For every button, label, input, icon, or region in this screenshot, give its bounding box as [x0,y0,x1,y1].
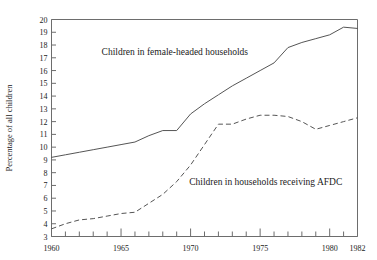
y-axis-title-group: Percentage of all children [4,84,14,172]
y-tick-label: 15 [40,79,48,88]
x-axis-ticks [52,229,358,237]
series-annotations: Children in female-headed householdsChil… [102,47,343,187]
y-axis-tick-labels: 34567891011121314151617181920 [40,16,48,242]
chart-canvas: 34567891011121314151617181920 1960196519… [0,0,377,260]
y-tick-label: 8 [44,169,48,178]
y-tick-label: 17 [40,54,48,63]
y-tick-label: 12 [40,118,48,127]
y-tick-label: 4 [44,220,48,229]
y-tick-label: 11 [40,130,48,139]
data-line-afdc-households [52,115,358,229]
x-tick-label: 1975 [252,244,268,253]
series-label-afdc-households: Children in households receiving AFDC [189,177,342,187]
y-tick-label: 6 [44,194,48,203]
x-tick-label: 1980 [322,244,338,253]
y-tick-label: 3 [44,233,48,242]
y-tick-label: 5 [44,207,48,216]
y-axis-title: Percentage of all children [4,84,14,172]
y-tick-label: 7 [44,181,48,190]
y-tick-label: 13 [40,105,48,114]
series-label-female-headed-households: Children in female-headed households [102,47,249,57]
y-tick-label: 16 [40,67,48,76]
y-tick-label: 19 [40,28,48,37]
y-tick-label: 18 [40,41,48,50]
x-tick-label: 1982 [350,244,366,253]
y-tick-label: 20 [40,16,48,25]
x-tick-label: 1965 [113,244,129,253]
x-tick-label: 1960 [44,244,60,253]
x-axis-tick-labels: 196019651970197519801982 [44,244,366,253]
chart-figure: 34567891011121314151617181920 1960196519… [0,0,377,260]
data-series-group [52,27,358,229]
x-tick-label: 1970 [183,244,199,253]
y-tick-label: 14 [40,92,48,101]
y-tick-label: 10 [40,143,48,152]
y-tick-label: 9 [44,156,48,165]
y-axis-ticks [52,20,57,237]
